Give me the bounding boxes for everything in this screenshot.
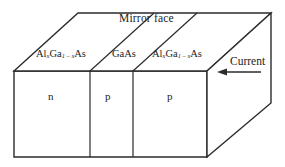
layer-middle-material-prefix: GaAs <box>112 48 136 59</box>
layer-middle-doping-label: p <box>105 91 111 102</box>
layer-right-material-sub2: 1 – x <box>178 52 191 59</box>
layer-left-material-prefix: Al <box>36 48 47 59</box>
layer-right-material-suffix: As <box>190 48 202 59</box>
layer-left-material-mid: Ga <box>49 48 61 59</box>
layer-left-doping-label: n <box>48 91 54 102</box>
semiconductor-heterostructure-diagram <box>0 0 285 167</box>
current-label: Current <box>230 56 265 68</box>
layer-left-material-label: AlxGa1 – xAs <box>36 49 86 60</box>
mirror-face-label: Mirror face <box>119 13 174 25</box>
front-face <box>14 71 207 157</box>
layer-right-material-mid: Ga <box>165 48 177 59</box>
figure-canvas: Mirror face AlxGa1 – xAs GaAs AlxGa1 – x… <box>0 0 285 167</box>
layer-left-material-sub2: 1 – x <box>62 52 75 59</box>
layer-left-material-suffix: As <box>74 48 86 59</box>
layer-right-material-label: AlxGa1 – xAs <box>152 49 202 60</box>
layer-right-doping-label: p <box>167 91 173 102</box>
layer-right-material-prefix: Al <box>152 48 163 59</box>
layer-middle-material-label: GaAs <box>112 49 136 60</box>
